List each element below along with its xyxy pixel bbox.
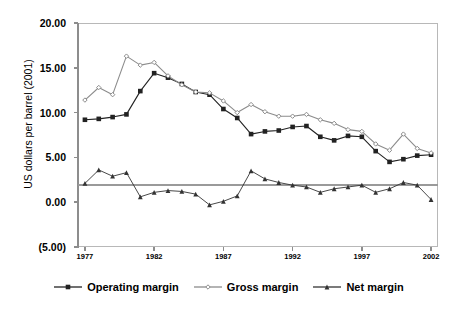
data-point-marker — [290, 114, 294, 118]
y-tick-label: 10.00 — [0, 107, 66, 119]
legend-label: Net margin — [346, 281, 403, 293]
data-point-marker — [373, 149, 378, 154]
legend-swatch-icon — [53, 282, 83, 292]
series-layer — [78, 23, 438, 247]
legend-item-net-margin[interactable]: Net margin — [312, 281, 403, 293]
x-tick-mark — [84, 247, 86, 251]
data-point-marker — [387, 160, 392, 165]
y-tick-label: 5.00 — [0, 151, 66, 163]
y-tick-label: 15.00 — [0, 62, 66, 74]
series-gross-margin — [83, 54, 434, 155]
data-point-marker — [96, 168, 101, 173]
data-point-marker — [318, 118, 322, 122]
x-tick-mark — [292, 247, 294, 251]
data-point-marker — [96, 117, 101, 122]
data-point-marker — [332, 121, 336, 125]
data-point-marker — [110, 115, 115, 120]
data-point-marker — [206, 285, 210, 289]
data-point-marker — [263, 110, 267, 114]
series-line — [85, 56, 431, 153]
data-point-marker — [138, 89, 143, 94]
data-point-marker — [263, 129, 268, 134]
legend-swatch-icon — [193, 282, 223, 292]
series-net-margin — [83, 168, 434, 208]
legend-item-operating-margin[interactable]: Operating margin — [53, 281, 179, 293]
y-tick-label: 20.00 — [0, 17, 66, 29]
chart-legend: Operating marginGross marginNet margin — [0, 281, 457, 293]
data-point-marker — [249, 132, 254, 137]
y-tick-label: 0.00 — [0, 196, 66, 208]
data-point-marker — [235, 194, 240, 199]
data-point-marker — [318, 134, 323, 139]
data-point-marker — [152, 71, 157, 76]
x-tick-label: 1992 — [284, 252, 301, 261]
series-line — [85, 73, 431, 162]
x-tick-mark — [361, 247, 363, 251]
y-axis-title: US dollars per barrel (2001) — [22, 24, 34, 224]
data-point-marker — [276, 128, 281, 133]
x-tick-mark — [153, 247, 155, 251]
x-tick-label: 1987 — [215, 252, 232, 261]
data-point-marker — [83, 117, 88, 122]
data-point-marker — [138, 194, 143, 199]
x-tick-mark — [223, 247, 225, 251]
chart-container: US dollars per barrel (2001) 20.0015.001… — [0, 0, 457, 313]
data-point-marker — [401, 157, 406, 162]
data-point-marker — [304, 112, 308, 116]
y-tick-label: (5.00) — [0, 241, 66, 253]
x-tick-label: 2002 — [423, 252, 440, 261]
legend-item-gross-margin[interactable]: Gross margin — [193, 281, 299, 293]
data-point-marker — [290, 125, 295, 130]
x-tick-label: 1997 — [354, 252, 371, 261]
data-point-marker — [304, 124, 309, 129]
x-tick-label: 1982 — [146, 252, 163, 261]
data-point-marker — [346, 134, 351, 139]
legend-swatch-icon — [312, 282, 342, 292]
legend-label: Operating margin — [87, 281, 179, 293]
data-point-marker — [124, 112, 129, 117]
legend-label: Gross margin — [227, 281, 299, 293]
data-point-marker — [235, 116, 240, 121]
data-point-marker — [360, 134, 365, 139]
data-point-marker — [66, 285, 71, 290]
data-point-marker — [249, 102, 253, 106]
series-line — [85, 170, 431, 205]
data-point-marker — [110, 92, 114, 96]
data-point-marker — [249, 168, 254, 173]
data-point-marker — [221, 107, 226, 112]
series-operating-margin — [83, 71, 434, 164]
data-point-marker — [332, 138, 337, 143]
data-point-marker — [277, 114, 281, 118]
x-tick-mark — [430, 247, 432, 251]
data-point-marker — [346, 127, 350, 131]
x-tick-label: 1977 — [77, 252, 94, 261]
data-point-marker — [415, 153, 420, 158]
